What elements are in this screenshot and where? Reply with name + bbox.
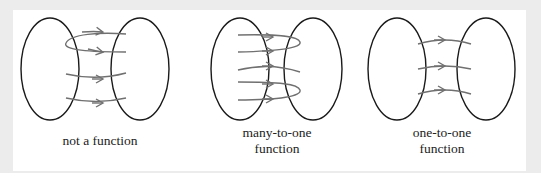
diagram-many-to-one xyxy=(211,18,342,120)
label-line: function xyxy=(217,141,337,157)
label-line: one-to-one xyxy=(382,125,502,141)
label-line: not a function xyxy=(63,133,138,148)
diagram-not-a-function xyxy=(21,18,169,120)
codomain-ellipse xyxy=(284,18,342,120)
codomain-ellipse xyxy=(457,18,515,120)
label-line: many-to-one xyxy=(217,125,337,141)
label-line: function xyxy=(382,141,502,157)
label-not-a-function: not a function xyxy=(40,133,160,149)
mapping-arrows xyxy=(418,40,471,94)
diagram-one-to-one xyxy=(368,18,515,120)
domain-ellipse xyxy=(368,18,426,120)
label-one-to-one: one-to-one function xyxy=(382,125,502,157)
domain-ellipse xyxy=(21,18,79,120)
label-many-to-one: many-to-one function xyxy=(217,125,337,157)
